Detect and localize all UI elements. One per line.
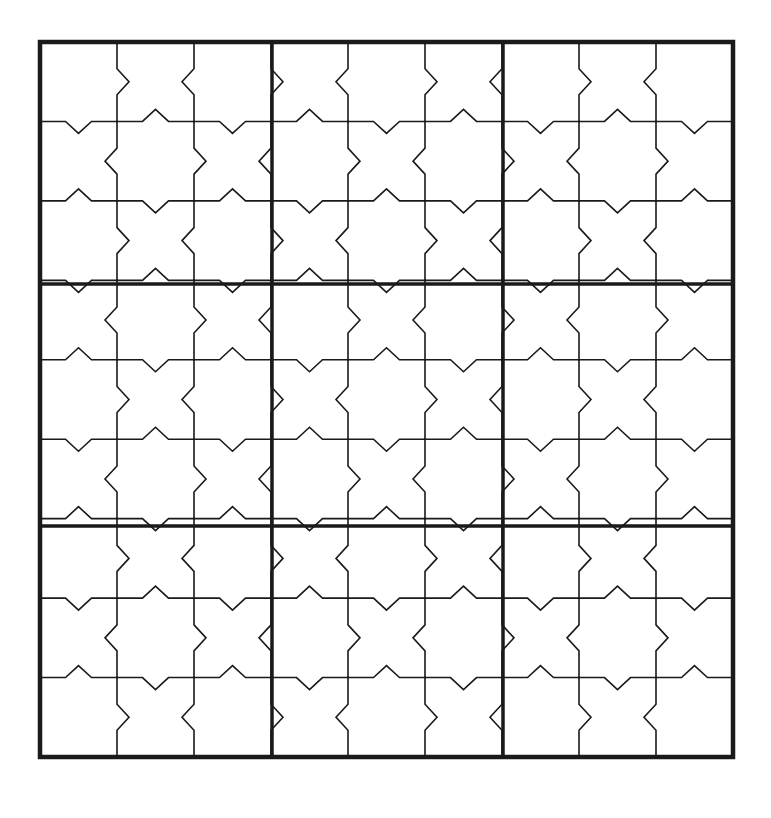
figure-root: Nine-block star tessellation grid A 3 by… bbox=[0, 0, 771, 818]
star-tessellation-figure: Nine-block star tessellation grid A 3 by… bbox=[0, 0, 771, 818]
